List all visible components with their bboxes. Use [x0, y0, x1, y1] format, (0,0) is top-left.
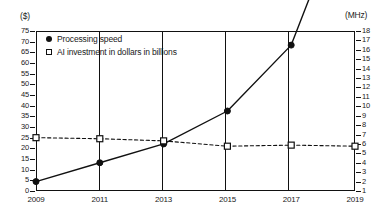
- left-tick-label: 25: [21, 134, 29, 142]
- left-tick-label: 60: [21, 59, 29, 67]
- right-tick-label: 10: [362, 102, 370, 110]
- left-tick-label: 10: [21, 166, 29, 174]
- x-tick-label: 2013: [155, 196, 172, 204]
- filled-circle-icon: [46, 36, 52, 42]
- right-tick-mark: [356, 78, 361, 79]
- right-tick-mark: [356, 50, 361, 51]
- left-tick-label: 75: [21, 27, 29, 35]
- left-tick-label: 45: [21, 91, 29, 99]
- left-tick-mark: [30, 180, 35, 181]
- x-tick-label: 2019: [347, 196, 364, 204]
- right-tick-label: 4: [362, 159, 366, 167]
- left-tick-label: 40: [21, 102, 29, 110]
- left-tick-mark: [30, 95, 35, 96]
- left-tick-label: 30: [21, 123, 29, 131]
- legend-item-ai-investment: AI investment in dollars in billions: [46, 47, 177, 57]
- right-tick-label: 13: [362, 74, 370, 82]
- right-tick-label: 14: [362, 65, 370, 73]
- left-tick-label: 0: [25, 187, 29, 195]
- left-tick-mark: [30, 42, 35, 43]
- right-tick-label: 11: [362, 93, 369, 101]
- gridline-2017: [288, 32, 289, 190]
- right-tick-mark: [356, 182, 361, 183]
- right-tick-label: 6: [362, 140, 366, 148]
- right-tick-mark: [356, 163, 361, 164]
- left-tick-mark: [30, 116, 35, 117]
- right-tick-label: 16: [362, 46, 370, 54]
- right-tick-label: 3: [362, 168, 366, 176]
- right-tick-mark: [356, 191, 361, 192]
- right-tick-label: 5: [362, 149, 366, 157]
- right-tick-label: 18: [362, 27, 370, 35]
- left-tick-label: 55: [21, 70, 29, 78]
- line-chart: ($) (MHz) 757065605550454035302520151050…: [0, 0, 385, 222]
- gridline-2015: [225, 32, 226, 190]
- left-tick-label: 20: [21, 144, 29, 152]
- left-tick-mark: [30, 159, 35, 160]
- open-square-icon: [46, 49, 52, 55]
- right-tick-label: 1: [362, 187, 366, 195]
- right-tick-label: 8: [362, 121, 366, 129]
- right-tick-label: 15: [362, 55, 370, 63]
- right-tick-mark: [356, 87, 361, 88]
- x-tick-label: 2015: [219, 196, 236, 204]
- left-tick-mark: [30, 148, 35, 149]
- right-tick-label: 17: [362, 36, 370, 44]
- right-tick-mark: [356, 97, 361, 98]
- left-tick-mark: [30, 63, 35, 64]
- left-tick-mark: [30, 52, 35, 53]
- left-tick-label: 15: [21, 155, 29, 163]
- right-tick-mark: [356, 106, 361, 107]
- right-tick-mark: [356, 59, 361, 60]
- right-tick-mark: [356, 40, 361, 41]
- left-tick-mark: [30, 74, 35, 75]
- left-axis-unit-label: ($): [20, 11, 30, 21]
- legend-label: Processing speed: [57, 34, 122, 44]
- left-tick-label: 50: [21, 80, 29, 88]
- left-tick-mark: [30, 127, 35, 128]
- right-tick-mark: [356, 125, 361, 126]
- left-tick-mark: [30, 106, 35, 107]
- legend: Processing speed AI investment in dollar…: [46, 34, 177, 57]
- left-tick-mark: [30, 191, 35, 192]
- legend-label: AI investment in dollars in billions: [57, 47, 177, 57]
- left-tick-mark: [30, 138, 35, 139]
- right-tick-label: 9: [362, 112, 366, 120]
- right-tick-label: 12: [362, 83, 370, 91]
- right-tick-mark: [356, 144, 361, 145]
- legend-item-processing-speed: Processing speed: [46, 34, 177, 44]
- x-tick-label: 2017: [283, 196, 300, 204]
- right-tick-mark: [356, 116, 361, 117]
- left-tick-mark: [30, 31, 35, 32]
- left-tick-mark: [30, 84, 35, 85]
- left-tick-label: 5: [25, 176, 29, 184]
- right-tick-label: 7: [362, 131, 366, 139]
- right-axis-unit-label: (MHz): [345, 10, 367, 20]
- right-tick-mark: [356, 69, 361, 70]
- right-tick-mark: [356, 135, 361, 136]
- left-tick-mark: [30, 170, 35, 171]
- left-tick-label: 35: [21, 112, 29, 120]
- x-tick-label: 2009: [28, 196, 45, 204]
- right-tick-mark: [356, 153, 361, 154]
- left-tick-label: 65: [21, 48, 29, 56]
- right-tick-label: 2: [362, 178, 366, 186]
- x-tick-label: 2011: [92, 196, 108, 204]
- left-tick-label: 70: [21, 38, 29, 46]
- right-tick-mark: [356, 172, 361, 173]
- right-tick-mark: [356, 31, 361, 32]
